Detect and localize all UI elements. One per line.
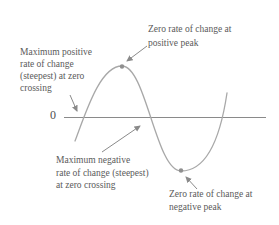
annotation-line: rate of change (steepest) [56,167,149,180]
positive-peak-dot [120,64,124,68]
negative-peak-dot [179,168,183,172]
annotation-line: crossing [20,82,92,94]
annotation-positive-peak: Zero rate of change at positive peak [148,23,231,50]
annotation-line: rate of change [20,58,92,70]
annotation-line: Zero rate of change at [148,23,231,37]
annotation-line: at zero crossing [56,179,149,192]
annotation-max-negative-rate: Maximum negative rate of change (steepes… [56,154,149,192]
arrow-to-rising-zero-crossing [70,95,77,111]
annotation-line: positive peak [148,37,231,51]
sine-wave-diagram: 0 Zero rate of change at positive peak M… [0,0,279,225]
arrow-to-falling-zero-crossing [102,126,140,152]
annotation-line: Maximum positive [20,46,92,58]
annotation-line: Maximum negative [56,154,149,167]
annotation-max-positive-rate: Maximum positive rate of change (steepes… [20,46,92,94]
axis-zero-label: 0 [50,109,56,121]
arrow-to-positive-peak [127,46,147,61]
annotation-negative-peak: Zero rate of change at negative peak [169,188,252,214]
annotation-line: Zero rate of change at [169,188,252,201]
annotation-line: (steepest) at zero [20,70,92,82]
annotation-line: negative peak [169,201,252,214]
